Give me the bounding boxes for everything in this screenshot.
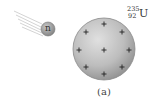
- isotope-label: 235 92 U: [127, 6, 157, 24]
- motion-lines-icon: [14, 11, 43, 36]
- element-symbol: U: [139, 8, 148, 20]
- neutron-label: n: [43, 22, 53, 34]
- figure-caption: (a): [0, 86, 159, 97]
- fission-diagram: n 235 92 U (a): [0, 0, 159, 106]
- atomic-number: 92: [128, 13, 136, 20]
